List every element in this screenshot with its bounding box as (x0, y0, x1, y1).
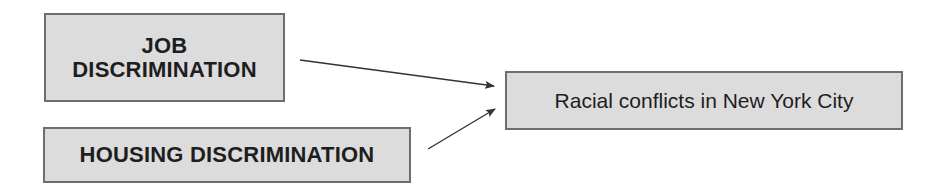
arrow-job-to-effect-icon (300, 60, 494, 86)
arrows-layer (0, 0, 951, 196)
arrow-housing-to-effect-icon (428, 109, 495, 149)
